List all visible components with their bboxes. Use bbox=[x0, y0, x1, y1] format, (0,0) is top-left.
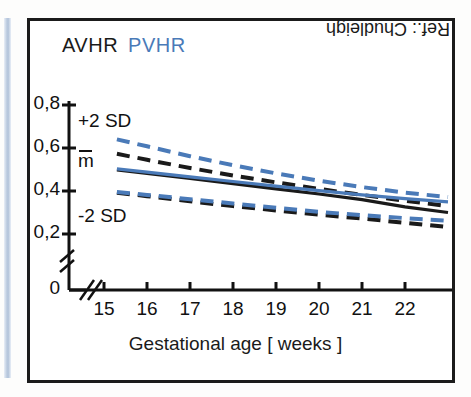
y-axis-tick-label: 0 bbox=[14, 277, 60, 299]
annotation-mean: m bbox=[78, 150, 94, 172]
y-axis-tick-label: 0,4 bbox=[14, 178, 60, 200]
x-axis-tick-label: 18 bbox=[216, 298, 250, 320]
x-axis-tick-label: 15 bbox=[87, 298, 121, 320]
x-axis-tick-label: 17 bbox=[173, 298, 207, 320]
x-axis-tick-label: 19 bbox=[259, 298, 293, 320]
annotation-minus-2sd: -2 SD bbox=[78, 205, 127, 227]
y-axis-tick-label: 0,6 bbox=[14, 135, 60, 157]
x-axis-tick-label: 22 bbox=[388, 298, 422, 320]
y-axis-tick-label: 0,8 bbox=[14, 92, 60, 114]
x-axis-tick-label: 20 bbox=[302, 298, 336, 320]
x-axis-title: Gestational age [ weeks ] bbox=[0, 333, 471, 355]
x-axis-tick-label: 21 bbox=[345, 298, 379, 320]
vhr-growth-chart-figure: AVHRPVHR Ref.: Chudleigh 0,80,60,40,20 1… bbox=[0, 0, 471, 397]
y-axis-tick-label: 0,2 bbox=[14, 221, 60, 243]
annotation-plus-2sd: +2 SD bbox=[78, 110, 131, 132]
x-axis-tick-label: 16 bbox=[130, 298, 164, 320]
